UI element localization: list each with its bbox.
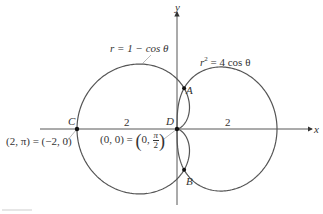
y-axis-label: y xyxy=(175,2,180,13)
point-d xyxy=(175,127,179,131)
label-b: B xyxy=(186,176,193,187)
polar-diagram xyxy=(0,0,323,214)
distance-left-label: 2 xyxy=(124,117,130,128)
watermark xyxy=(2,209,32,211)
d-coordinates: (0, 0) = (0, π2) xyxy=(100,131,165,150)
leader-cardioid xyxy=(142,55,151,64)
point-b xyxy=(182,168,186,172)
cardioid-equation: r = 1 − cos θ xyxy=(110,43,168,54)
label-a: A xyxy=(186,85,193,96)
x-axis-label: x xyxy=(314,124,319,135)
c-coordinates: (2, π) = (−2, 0) xyxy=(6,136,72,147)
leader-d xyxy=(164,129,177,139)
lemniscate-equation: r2 = 4 cos θ xyxy=(200,56,250,68)
label-c: C xyxy=(68,116,75,127)
label-d: D xyxy=(166,116,174,127)
point-c xyxy=(75,127,79,131)
distance-right-label: 2 xyxy=(225,117,231,128)
